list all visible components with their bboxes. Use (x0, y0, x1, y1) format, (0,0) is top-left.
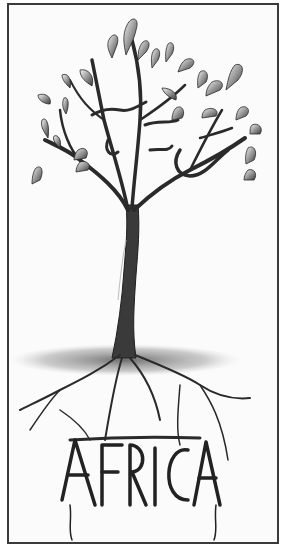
trunk (112, 205, 139, 358)
root-letters (62, 440, 220, 540)
branches (45, 40, 245, 210)
tree-illustration (0, 0, 282, 546)
